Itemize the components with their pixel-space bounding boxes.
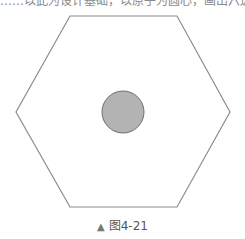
- figure-caption: ▲图4-21: [0, 216, 245, 233]
- center-circle: [102, 91, 144, 133]
- hexagon-diagram: [0, 0, 245, 239]
- triangle-marker-icon: ▲: [97, 221, 105, 232]
- caption-label: 图4-21: [109, 219, 148, 233]
